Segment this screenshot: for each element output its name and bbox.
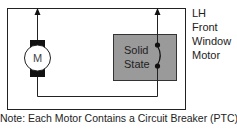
side-label-3: Window: [192, 34, 231, 48]
side-label-4: Motor: [192, 48, 220, 62]
side-label-1: LH: [192, 6, 206, 20]
solid-state-label-2: State: [124, 57, 150, 71]
side-label-2: Front: [192, 20, 218, 34]
arrow-up-icon: [35, 8, 41, 15]
arrow-up-icon: [155, 8, 161, 15]
motor-label: M: [31, 51, 44, 65]
note-text: Note: Each Motor Contains a Circuit Brea…: [0, 112, 237, 124]
solid-state-label-1: Solid: [124, 43, 148, 57]
